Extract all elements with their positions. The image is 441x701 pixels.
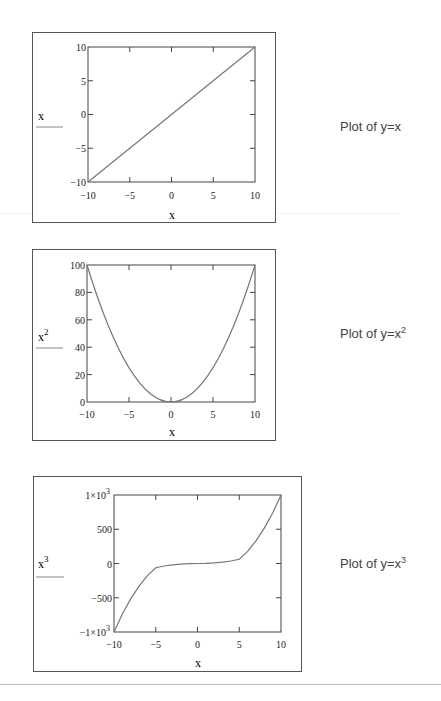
chart-linear: 10 5 0 −5 −10 −10 −5 0 5 10 x x	[0, 0, 300, 230]
svg-text:0: 0	[195, 639, 200, 650]
x-tick-labels: −10 −5 0 5 10	[106, 639, 286, 650]
caption-quadratic: Plot of y=x2	[340, 325, 406, 341]
x-tick-labels: −10 −5 0 5 10	[79, 409, 260, 420]
series-line-x3	[114, 495, 281, 632]
svg-text:40: 40	[75, 342, 85, 353]
svg-text:−10: −10	[70, 177, 86, 188]
caption-linear: Plot of y=x	[340, 118, 401, 134]
y-axis-label: x2	[38, 327, 49, 344]
y-tick-labels: 1×103 500 0 −500 −1×103	[80, 487, 112, 638]
x-axis-label: x	[195, 656, 201, 670]
svg-text:−500: −500	[91, 593, 112, 604]
svg-text:−5: −5	[150, 639, 161, 650]
y-tick-labels: 10 5 0 −5 −10	[70, 42, 86, 188]
y-axis-label: x3	[38, 554, 49, 571]
plot-area	[114, 495, 281, 632]
series-line-x	[88, 47, 255, 182]
page-bottom-rule	[0, 684, 441, 685]
svg-text:−5: −5	[75, 143, 86, 154]
x-tick-labels: −10 −5 0 5 10	[80, 190, 260, 201]
svg-text:100: 100	[70, 260, 85, 271]
svg-text:5: 5	[211, 190, 216, 201]
chart-cubic: 1×103 500 0 −500 −1×103 −10 −5 0 5 10 x …	[0, 470, 310, 680]
svg-text:10: 10	[276, 639, 286, 650]
plot-area	[88, 47, 255, 182]
svg-text:1×103: 1×103	[85, 487, 110, 501]
caption-cubic: Plot of y=x3	[340, 555, 406, 571]
svg-text:0: 0	[169, 190, 174, 201]
svg-text:0: 0	[81, 109, 86, 120]
svg-text:5: 5	[237, 639, 242, 650]
svg-text:0: 0	[80, 397, 85, 408]
chart-quadratic: 100 80 60 40 20 0 −10 −5 0 5 10 x x2	[0, 240, 300, 450]
x-axis-label: x	[169, 208, 175, 222]
svg-text:5: 5	[211, 409, 216, 420]
svg-text:10: 10	[250, 409, 260, 420]
svg-text:10: 10	[76, 42, 86, 53]
svg-text:80: 80	[75, 287, 85, 298]
svg-text:20: 20	[75, 370, 85, 381]
svg-text:−5: −5	[124, 409, 135, 420]
svg-text:0: 0	[169, 409, 174, 420]
plot-area	[87, 265, 255, 402]
x-axis-label: x	[169, 425, 175, 439]
svg-text:−1×103: −1×103	[80, 624, 110, 638]
svg-text:10: 10	[250, 190, 260, 201]
svg-text:0: 0	[107, 559, 112, 570]
svg-text:5: 5	[81, 76, 86, 87]
series-line-x2	[87, 265, 255, 402]
svg-text:−10: −10	[79, 409, 95, 420]
svg-text:−10: −10	[106, 639, 122, 650]
svg-text:−10: −10	[80, 190, 96, 201]
svg-text:500: 500	[97, 524, 112, 535]
y-tick-labels: 100 80 60 40 20 0	[70, 260, 85, 408]
svg-text:60: 60	[75, 315, 85, 326]
y-axis-label: x	[38, 109, 44, 123]
svg-text:−5: −5	[124, 190, 135, 201]
